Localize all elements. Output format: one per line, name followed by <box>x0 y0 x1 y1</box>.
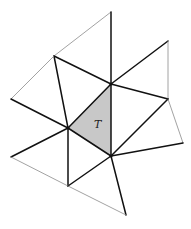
edge-A-B <box>54 12 111 56</box>
vertex-G <box>66 126 69 129</box>
edge-C-E <box>111 84 168 99</box>
triangle-tiling-diagram: T <box>0 0 191 229</box>
edge-K-H <box>68 156 111 186</box>
edge-F-G <box>11 99 68 128</box>
edge-H-L <box>111 156 126 215</box>
edge-B-C <box>54 56 111 84</box>
shaded-triangle-t <box>68 84 111 156</box>
edge-B-G <box>54 56 68 128</box>
vertex-C <box>109 82 112 85</box>
edge-K-L <box>68 186 126 215</box>
edge-G-J <box>11 128 68 157</box>
edge-C-D <box>111 41 168 84</box>
edge-B-F <box>11 56 54 99</box>
edge-J-K <box>11 157 68 186</box>
edge-E-I <box>168 99 183 143</box>
vertex-H <box>109 154 112 157</box>
